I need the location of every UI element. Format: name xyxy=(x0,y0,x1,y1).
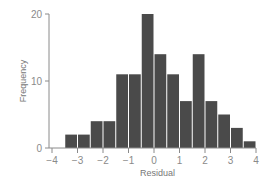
x-axis-title: Residual xyxy=(140,168,175,178)
histogram-bar xyxy=(155,54,167,148)
histogram-bar xyxy=(193,54,205,148)
histogram-bar xyxy=(231,128,243,148)
histogram-chart: 01020 −4−3−2−101234 Residual Frequency xyxy=(0,0,270,184)
y-axis-title: Frequency xyxy=(18,59,28,102)
y-axis-ticks: 01020 xyxy=(31,9,49,154)
histogram-bar xyxy=(180,101,192,148)
x-tick-label: 1 xyxy=(177,155,183,166)
histogram-bar xyxy=(142,14,154,148)
histogram-bar xyxy=(244,141,256,148)
histogram-bar xyxy=(78,135,90,148)
histogram-bar xyxy=(91,121,103,148)
histogram-bar xyxy=(129,74,141,148)
histogram-bar xyxy=(206,101,218,148)
x-tick-label: −3 xyxy=(72,155,84,166)
histogram-bars xyxy=(65,14,255,148)
x-axis-ticks: −4−3−2−101234 xyxy=(46,148,259,166)
x-tick-label: 4 xyxy=(253,155,259,166)
x-tick-label: 3 xyxy=(228,155,234,166)
x-tick-label: 2 xyxy=(202,155,208,166)
histogram-bar xyxy=(65,135,77,148)
y-tick-label: 20 xyxy=(31,9,43,20)
histogram-bar xyxy=(167,74,179,148)
histogram-bar xyxy=(116,74,128,148)
x-tick-label: −1 xyxy=(123,155,135,166)
x-tick-label: −2 xyxy=(97,155,109,166)
y-tick-label: 10 xyxy=(31,76,43,87)
x-tick-label: −4 xyxy=(46,155,58,166)
y-tick-label: 0 xyxy=(36,143,42,154)
histogram-bar xyxy=(218,115,230,149)
x-tick-label: 0 xyxy=(151,155,157,166)
histogram-bar xyxy=(104,121,116,148)
